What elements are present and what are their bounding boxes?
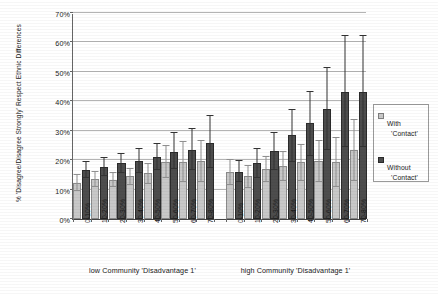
bar-with-contact	[161, 162, 169, 219]
y-axis-tick-label: 0%	[38, 216, 70, 225]
plot-area	[72, 14, 366, 220]
error-bar-cap	[245, 165, 252, 166]
error-bar-cap	[153, 143, 160, 144]
chart-legend: With 'Contact' Without 'Contact'	[373, 104, 429, 182]
x-axis-tick-label: 50-60%	[172, 199, 179, 223]
legend-label-without-contact: Without 'Contact'	[387, 164, 424, 183]
x-axis-tick-label: 50-60%	[325, 199, 332, 223]
error-bar-cap	[324, 67, 331, 68]
bar-series-container	[73, 14, 366, 219]
legend-label-with-contact-line1: With	[387, 120, 401, 127]
x-axis-tick-label: 40-50%	[154, 199, 161, 223]
error-bar-cap	[83, 161, 90, 162]
error-bar-cap	[197, 140, 204, 141]
x-axis-group-labels: low Community 'Disadvantage 1'high Commu…	[72, 266, 366, 282]
gridline	[73, 12, 366, 13]
chart-figure: % 'Disagree/Disagree Strongly' Respect E…	[0, 0, 438, 294]
legend-label-without-contact-line1: Without	[387, 164, 411, 171]
x-axis-tick-label: 30-40%	[137, 199, 144, 223]
x-axis-group-label: low Community 'Disadvantage 1'	[72, 266, 213, 275]
error-bar-cap	[127, 168, 134, 169]
bar-with-contact	[197, 161, 205, 219]
y-axis-tick-labels: 0%10%20%30%40%50%60%70%	[36, 0, 70, 226]
x-axis-tickmark	[367, 219, 368, 222]
error-bar-cap	[180, 141, 187, 142]
x-axis-tick-label: 20-30%	[119, 199, 126, 223]
bar-with-contact	[262, 169, 270, 219]
error-bar-cap	[341, 35, 348, 36]
error-bar-cap	[271, 132, 278, 133]
bar-with-contact	[91, 179, 99, 219]
error-bar-cap	[162, 145, 169, 146]
x-axis-tick-label: 10-20%	[254, 199, 261, 223]
legend-label-with-contact-line2: 'Contact'	[387, 130, 424, 139]
x-axis-tick-label: 60-70%	[343, 199, 350, 223]
error-bar-cap	[306, 91, 313, 92]
error-bar-cap	[315, 140, 322, 141]
error-bar-cap	[74, 174, 81, 175]
legend-item-without-contact: Without 'Contact'	[378, 156, 424, 183]
x-axis-tick-label: 40-50%	[307, 199, 314, 223]
bar-with-contact	[279, 166, 287, 219]
bar-with-contact	[297, 162, 305, 219]
error-bar-cap	[109, 172, 116, 173]
bar-with-contact	[109, 180, 117, 219]
error-bar-cap	[227, 159, 234, 160]
error-bar-cap	[100, 157, 107, 158]
y-axis-tick-label: 30%	[38, 127, 70, 136]
error-bar-cap	[359, 35, 366, 36]
bar-with-contact	[226, 172, 234, 219]
error-bar-cap	[188, 128, 195, 129]
error-bar-cap	[171, 132, 178, 133]
y-axis-tick-label: 20%	[38, 157, 70, 166]
legend-label-without-contact-line2: 'Contact'	[387, 174, 424, 183]
x-axis-tick-label: 70-80%	[207, 199, 214, 223]
error-bar-cap	[333, 137, 340, 138]
x-axis-tick-label: 60-70%	[190, 199, 197, 223]
y-axis-tick-label: 50%	[38, 68, 70, 77]
y-axis-tick-label: 10%	[38, 186, 70, 195]
error-bar-cap	[236, 160, 243, 161]
error-bar-cap	[136, 148, 143, 149]
y-axis-title-container: % 'Disagree/Disagree Strongly' Respect E…	[0, 0, 38, 226]
error-bar-cap	[350, 119, 357, 120]
bar-with-contact	[314, 161, 322, 219]
bar-with-contact	[244, 176, 252, 219]
legend-swatch-without-contact	[378, 157, 384, 163]
error-bar-cap	[297, 144, 304, 145]
y-axis-tick-label: 70%	[38, 10, 70, 19]
x-axis-tick-label: 0-10%	[84, 203, 91, 223]
error-bar-cap	[289, 109, 296, 110]
bar-with-contact	[73, 183, 81, 219]
bar-with-contact	[179, 162, 187, 219]
x-axis-tick-label: 0-10%	[237, 203, 244, 223]
x-axis-group-label: high Community 'Disadvantage 1'	[225, 266, 366, 275]
bar-with-contact	[350, 150, 358, 219]
y-axis-tick-label: 40%	[38, 98, 70, 107]
error-bar-cap	[118, 153, 125, 154]
x-axis-tick-labels: 0-10%10-20%20-30%30-40%40-50%50-60%60-70…	[72, 222, 366, 264]
error-bar-cap	[92, 171, 99, 172]
legend-label-with-contact: With 'Contact'	[387, 120, 424, 139]
x-axis-tick-label: 10-20%	[101, 199, 108, 223]
y-axis-tick-label: 60%	[38, 39, 70, 48]
x-axis-tick-label: 20-30%	[272, 199, 279, 223]
x-axis-tick-label: 70-80%	[360, 199, 367, 223]
error-bar-cap	[144, 163, 151, 164]
bar-with-contact	[144, 173, 152, 219]
error-bar-cap	[253, 148, 260, 149]
y-axis-title: % 'Disagree/Disagree Strongly' Respect E…	[15, 8, 23, 218]
legend-item-with-contact: With 'Contact'	[378, 112, 424, 139]
error-bar-cap	[206, 115, 213, 116]
error-bar-cap	[262, 156, 269, 157]
y-axis-tickmark	[70, 12, 73, 13]
legend-swatch-with-contact	[378, 113, 384, 119]
bar-with-contact	[126, 176, 134, 219]
bar-with-contact	[332, 162, 340, 219]
error-bar-cap	[280, 151, 287, 152]
x-axis-tick-label: 30-40%	[290, 199, 297, 223]
